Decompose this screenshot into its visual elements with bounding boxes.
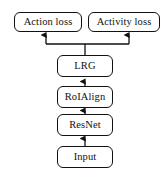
node-action-loss-label: Action loss: [24, 17, 73, 28]
node-input-label: Input: [74, 152, 97, 163]
node-roialign: RoIAlign: [57, 86, 113, 108]
node-activity-loss-label: Activity loss: [97, 17, 152, 28]
node-input: Input: [57, 146, 113, 168]
node-lrg: LRG: [57, 55, 113, 77]
node-activity-loss: Activity loss: [88, 12, 160, 32]
node-action-loss: Action loss: [14, 12, 82, 32]
node-lrg-label: LRG: [74, 61, 95, 72]
node-resnet-label: ResNet: [69, 120, 101, 131]
architecture-diagram: Action loss Activity loss LRG RoIAlign R…: [0, 0, 168, 177]
node-resnet: ResNet: [57, 114, 113, 136]
node-roialign-label: RoIAlign: [65, 92, 105, 103]
